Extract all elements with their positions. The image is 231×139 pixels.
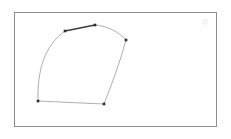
canvas-frame: [14, 12, 217, 127]
figure-description: Closed five-vertex curvilinear polygon o…: [0, 0, 1, 1]
app-root: Closed five-vertex curvilinear polygon o…: [0, 0, 231, 139]
